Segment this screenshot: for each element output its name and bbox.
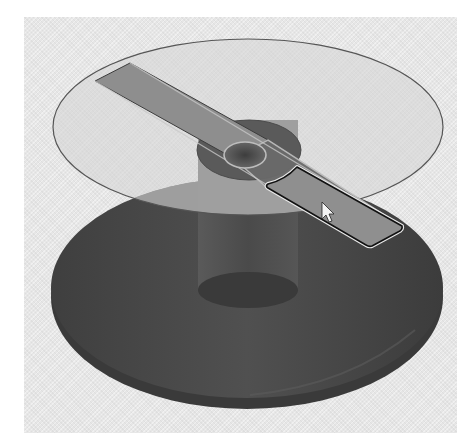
model-viewport[interactable]: 3D model viewport — [24, 17, 457, 433]
hub-circle[interactable] — [224, 142, 266, 168]
